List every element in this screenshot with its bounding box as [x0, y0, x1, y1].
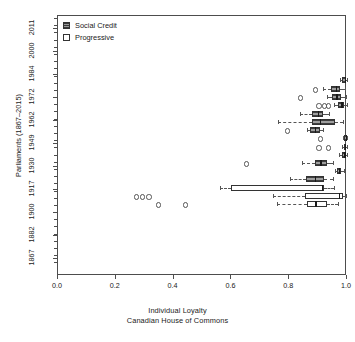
whisker-cap [327, 95, 328, 99]
whisker-cap [307, 128, 308, 132]
outlier-point [298, 95, 303, 100]
median-line [315, 127, 316, 133]
legend-item-progressive: Progressive [63, 32, 117, 42]
box-progressive [305, 193, 343, 199]
whisker [327, 204, 337, 205]
x-tick [288, 275, 289, 279]
x-tick-label: 0.4 [168, 281, 178, 290]
y-tick [53, 28, 57, 29]
filled-square-icon [63, 22, 70, 29]
whisker-cap [333, 161, 334, 165]
median-line [336, 86, 337, 92]
y-tick-minor [54, 219, 57, 220]
median-line [341, 102, 342, 108]
whisker-cap [273, 194, 274, 198]
whisker [335, 122, 343, 123]
whisker-cap [323, 87, 324, 91]
median-line [336, 94, 337, 100]
y-tick [53, 143, 57, 144]
legend: Social Credit Progressive [63, 20, 117, 44]
x-tick [346, 275, 347, 279]
whisker-cap [347, 78, 348, 82]
outlier-point [285, 128, 290, 133]
whisker-cap [278, 120, 279, 124]
outlier-point [183, 202, 188, 207]
whisker-cap [339, 153, 340, 157]
whisker-cap [333, 177, 334, 181]
median-line [322, 185, 323, 191]
outlier-point [313, 87, 318, 92]
median-line [339, 193, 340, 199]
whisker-cap [344, 169, 345, 173]
legend-item-social-credit: Social Credit [63, 20, 117, 30]
y-tick [53, 258, 57, 259]
y-tick-minor [54, 76, 57, 77]
median-line [320, 119, 321, 125]
y-tick-minor [54, 126, 57, 127]
y-tick-minor [54, 147, 57, 148]
y-tick [53, 120, 57, 121]
whisker-cap [334, 103, 335, 107]
x-tick-label: 0.6 [225, 281, 235, 290]
y-tick-minor [54, 25, 57, 26]
outlier-point [140, 194, 145, 199]
y-tick-minor [54, 133, 57, 134]
outlier-point [134, 194, 139, 199]
box-social-credit [312, 119, 335, 125]
x-axis-title: Individual Loyalty [0, 306, 355, 315]
median-line [339, 168, 340, 174]
whisker [220, 188, 232, 189]
y-tick-minor [54, 32, 57, 33]
whisker-cap [220, 186, 221, 190]
plot-area: Social Credit Progressive [57, 15, 346, 275]
y-tick [53, 97, 57, 98]
y-tick [53, 212, 57, 213]
whisker-cap [335, 169, 336, 173]
y-axis-title: Parliaments (1867–2015) [14, 76, 23, 196]
outlier-point [244, 161, 249, 166]
outlier-point [156, 202, 161, 207]
whisker-cap [334, 186, 335, 190]
median-line [345, 144, 346, 150]
whisker-cap [290, 177, 291, 181]
x-tick-label: 1.0 [341, 281, 351, 290]
outlier-point [318, 136, 323, 141]
y-tick-minor [54, 18, 57, 19]
whisker-cap [340, 78, 341, 82]
x-tick-label: 0.2 [110, 281, 120, 290]
x-tick [115, 275, 116, 279]
whisker-cap [302, 161, 303, 165]
y-tick-minor [54, 140, 57, 141]
legend-label: Social Credit [75, 21, 117, 30]
whisker-cap [300, 112, 301, 116]
y-tick-minor [54, 248, 57, 249]
box-progressive [307, 201, 327, 207]
outlier-point [316, 145, 321, 150]
y-tick-minor [54, 111, 57, 112]
whisker-cap [277, 202, 278, 206]
y-tick-minor [54, 176, 57, 177]
whisker [277, 204, 307, 205]
median-line [315, 201, 316, 207]
y-tick-minor [54, 262, 57, 263]
whisker-cap [347, 145, 348, 149]
empty-square-icon [63, 34, 70, 41]
median-line [320, 160, 321, 166]
whisker [302, 163, 314, 164]
x-tick [173, 275, 174, 279]
x-tick [57, 275, 58, 279]
whisker [324, 179, 333, 180]
y-tick-minor [54, 83, 57, 84]
y-tick-minor [54, 198, 57, 199]
x-tick-label: 0.0 [52, 281, 62, 290]
y-tick [53, 51, 57, 52]
boxplot-figure: Social Credit Progressive 0.00.20.40.60.… [0, 0, 355, 342]
median-line [346, 135, 347, 141]
y-tick-minor [54, 40, 57, 41]
y-tick-minor [54, 255, 57, 256]
whisker-cap [346, 95, 347, 99]
y-tick [53, 74, 57, 75]
y-tick [53, 166, 57, 167]
whisker-cap [338, 202, 339, 206]
whisker [290, 179, 306, 180]
